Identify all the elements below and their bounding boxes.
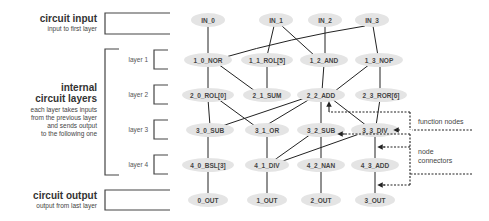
brackets [105,13,170,210]
connector [222,98,305,126]
node-3-2: 3_2_SUB [297,123,345,137]
svg-text:2_2_ADD: 2_2_ADD [307,92,336,99]
node-in-3: IN_3 [355,13,389,27]
node-connectors [208,24,380,196]
connector [222,26,365,58]
left-legend: circuit input input to first layer inter… [31,13,98,210]
circuit-input-subtitle: input to first layer [48,25,98,33]
layer3-bracket [154,120,168,139]
layer-labels: layer 1 layer 2 layer 3 layer 4 [128,56,148,169]
connector [265,99,310,126]
svg-text:3_3_DIV: 3_3_DIV [362,127,388,134]
svg-text:1_0_NOR: 1_0_NOR [194,57,223,64]
connector [322,64,324,91]
svg-text:4_3_ADD: 4_3_ADD [361,162,390,169]
layer-3-label: layer 3 [128,126,148,134]
svg-text:3_OUT: 3_OUT [365,197,386,204]
svg-text:2_OUT: 2_OUT [311,197,332,204]
internal-layers-title-2: circuit layers [35,93,97,104]
svg-text:1_OUT: 1_OUT [257,197,278,204]
svg-text:IN_2: IN_2 [318,17,332,24]
node-out-1: 1_OUT [247,193,287,207]
svg-text:2_3_ROR[6]: 2_3_ROR[6] [363,92,400,100]
connector [335,64,370,91]
node-2-3: 2_3_ROR[6] [355,88,407,102]
svg-text:IN_1: IN_1 [269,17,283,24]
svg-text:3_0_SUB: 3_0_SUB [196,127,224,134]
svg-text:1_2_AND: 1_2_AND [310,57,339,64]
connector [218,99,255,126]
layer-2-label: layer 2 [128,91,148,99]
connector [273,134,311,161]
node-in-1: IN_1 [259,13,293,27]
node-connectors-label-1: node [418,148,434,155]
svg-text:2_1_SUM: 2_1_SUM [253,92,282,99]
layer2-bracket [154,85,168,104]
function-nodes: IN_0 IN_1 IN_2 IN_3 1_0_NOR 1_1_ROL[5] 1… [182,13,407,207]
svg-text:3_2_SUB: 3_2_SUB [307,127,335,134]
connector [218,64,255,91]
annotation-labels: function nodes node connectors [418,118,464,164]
node-4-2: 4_2_NAN [297,158,345,172]
layer-4-label: layer 4 [128,161,148,169]
node-2-2: 2_2_ADD [297,88,345,102]
node-2-1: 2_1_SUM [243,88,291,102]
input-bracket [105,13,170,34]
node-connectors-label-2: connectors [418,157,453,164]
node-4-1: 4_1_DIV [245,158,289,172]
internal-layers-desc-2: from the previous layer [31,114,98,122]
svg-text:IN_3: IN_3 [365,17,379,24]
function-nodes-label: function nodes [418,118,464,125]
svg-text:0_OUT: 0_OUT [198,197,219,204]
node-4-0: 4_0_BSL[3] [182,158,234,172]
svg-text:3_1_OR: 3_1_OR [255,127,280,134]
output-bracket [105,190,170,210]
circuit-output-subtitle: output from last layer [36,202,98,210]
node-1-3: 1_3_NOP [355,53,403,67]
circuit-output-title: circuit output [33,190,98,201]
annotation-callouts [329,104,472,185]
node-2-0: 2_0_ROL[0] [182,88,234,102]
connector [267,26,274,56]
node-3-1: 3_1_OR [245,123,289,137]
node-3-3: 3_3_DIV [351,123,399,137]
svg-text:2_0_ROL[0]: 2_0_ROL[0] [190,92,226,100]
node-in-2: IN_2 [308,13,342,27]
internal-layers-desc-1: each layer takes inputs [31,106,98,114]
svg-text:4_0_BSL[3]: 4_0_BSL[3] [190,162,225,170]
svg-text:IN_0: IN_0 [201,17,215,24]
connector [373,26,378,56]
svg-text:1_1_ROL[5]: 1_1_ROL[5] [249,57,285,65]
layer1-bracket [154,50,168,69]
node-3-0: 3_0_SUB [186,123,234,137]
node-out-2: 2_OUT [301,193,341,207]
node-1-0: 1_0_NOR [184,53,232,67]
svg-text:4_2_NAN: 4_2_NAN [307,162,336,169]
svg-text:4_1_DIV: 4_1_DIV [254,162,280,169]
node-1-1: 1_1_ROL[5] [241,53,293,67]
internal-layers-bracket [105,49,119,175]
internal-layers-desc-4: to the following one [41,130,97,138]
connector [208,99,210,126]
layer4-bracket [154,155,168,174]
node-4-3: 4_3_ADD [351,158,399,172]
circuit-input-title: circuit input [40,13,98,24]
node-1-2: 1_2_AND [300,53,348,67]
node-out-3: 3_OUT [355,193,395,207]
node-out-0: 0_OUT [188,193,228,207]
layer-1-label: layer 1 [128,56,148,64]
svg-text:1_3_NOP: 1_3_NOP [365,57,394,64]
node-in-0: IN_0 [191,13,225,27]
internal-layers-title-1: internal [61,82,97,93]
internal-layers-desc-3: and sends output [47,122,97,130]
circuit-diagram: circuit input input to first layer inter… [0,0,489,221]
